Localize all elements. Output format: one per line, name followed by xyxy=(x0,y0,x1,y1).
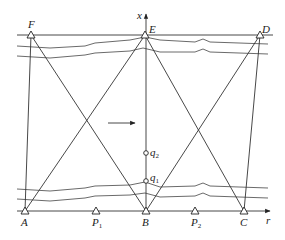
x-axis-label: x xyxy=(136,9,142,21)
label-P1: P1 xyxy=(91,216,103,230)
point-P1-triangle-icon xyxy=(92,207,100,214)
station-A-triangle-icon xyxy=(21,207,29,214)
line-D-C xyxy=(244,35,260,211)
triangulation-diagram: x r F E D A B C P1 P2 q2 q1 xyxy=(0,0,285,240)
label-E: E xyxy=(148,23,156,35)
line-E-C xyxy=(145,35,244,211)
label-P2: P2 xyxy=(190,216,202,230)
station-C-triangle-icon xyxy=(240,207,248,214)
line-F-A xyxy=(25,35,31,211)
station-F-triangle-icon xyxy=(27,31,35,38)
label-B: B xyxy=(142,216,149,228)
station-E-triangle-icon xyxy=(141,31,149,38)
r-axis-label: r xyxy=(266,214,271,226)
point-P2-triangle-icon xyxy=(191,207,199,214)
upper-bank-line-2 xyxy=(17,48,268,58)
label-q2: q2 xyxy=(150,146,160,160)
label-A: A xyxy=(20,216,28,228)
label-D: D xyxy=(261,23,270,35)
station-B-triangle-icon xyxy=(142,207,150,214)
line-D-B xyxy=(146,35,260,211)
label-C: C xyxy=(240,216,248,228)
label-F: F xyxy=(27,18,35,30)
point-q1-circle-icon xyxy=(144,179,149,184)
label-q1: q1 xyxy=(150,171,160,185)
lower-bank-line-2 xyxy=(17,193,268,201)
point-q2-circle-icon xyxy=(144,151,149,156)
